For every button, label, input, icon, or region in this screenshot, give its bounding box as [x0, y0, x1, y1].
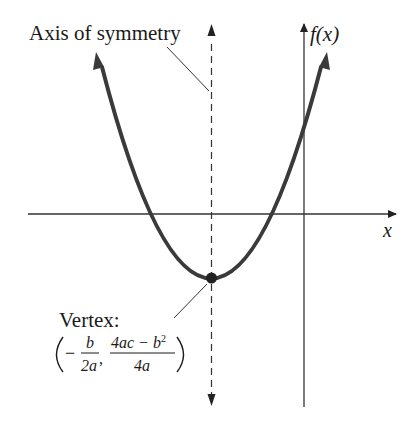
vertex-y-denominator: 4a — [134, 357, 150, 374]
vertex-x-denominator: 2a — [81, 357, 97, 374]
vertex-x-numerator: b — [86, 334, 94, 351]
comma: , — [99, 350, 103, 367]
left-paren — [57, 337, 64, 372]
vertex-label-leader-line — [174, 284, 207, 318]
left-curve-arrow-icon — [93, 52, 104, 70]
axis-label-leader-line — [167, 47, 209, 91]
vertex-title: Vertex: — [59, 308, 120, 332]
parabola-diagram: Axis of symmetry f(x) x Vertex: − b 2a ,… — [0, 0, 416, 424]
right-curve-arrow-icon — [319, 52, 330, 70]
axis-of-symmetry-label: Axis of symmetry — [29, 21, 181, 45]
y-axis-label: f(x) — [310, 22, 339, 46]
minus-sign: − — [65, 343, 75, 363]
vertex-y-numerator: 4ac − b2 — [111, 333, 166, 351]
vertex-formula: − b 2a , 4ac − b2 4a — [57, 333, 184, 374]
vertex-point — [206, 273, 217, 284]
axis-of-symmetry-arrow-up-icon — [208, 24, 216, 36]
right-paren — [177, 337, 184, 372]
x-axis-label: x — [382, 219, 392, 241]
axis-of-symmetry-arrow-down-icon — [208, 394, 216, 406]
